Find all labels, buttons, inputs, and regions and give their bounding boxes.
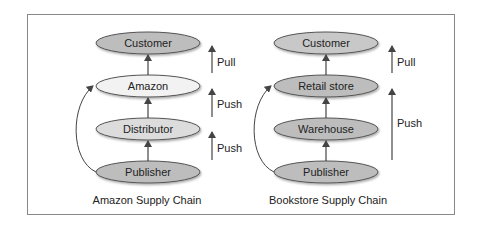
supply-chain-diagram: Customer Amazon Distributor Publisher Pu…	[0, 0, 479, 235]
arrow-publisher-to-amazon	[76, 86, 96, 172]
amazon-supply-chain: Customer Amazon Distributor Publisher Pu…	[76, 32, 242, 206]
flow-label-push-2: Push	[217, 142, 242, 154]
node-publisher-label: Publisher	[125, 166, 171, 178]
flow-label-push: Push	[397, 117, 422, 129]
node-publisher-label: Publisher	[303, 166, 349, 178]
flow-label-pull: Pull	[217, 56, 235, 68]
node-customer-label: Customer	[302, 37, 350, 49]
flow-label-pull: Pull	[397, 56, 415, 68]
node-distributor-label: Distributor	[123, 123, 173, 135]
caption-bookstore: Bookstore Supply Chain	[269, 194, 387, 206]
node-amazon-label: Amazon	[128, 80, 168, 92]
node-retail-store-label: Retail store	[298, 80, 354, 92]
flow-label-push-1: Push	[217, 98, 242, 110]
arrow-publisher-to-retail	[254, 86, 274, 172]
node-warehouse-label: Warehouse	[298, 123, 354, 135]
caption-amazon: Amazon Supply Chain	[93, 194, 202, 206]
bookstore-supply-chain: Customer Retail store Warehouse Publishe…	[254, 32, 422, 206]
node-customer-label: Customer	[124, 37, 172, 49]
